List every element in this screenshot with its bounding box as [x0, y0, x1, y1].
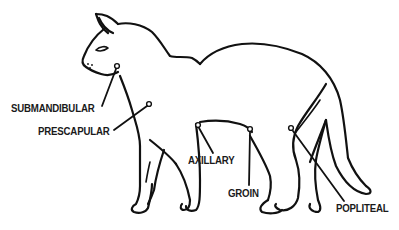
axillary-node-marker	[196, 123, 201, 128]
popliteal-node-marker	[289, 126, 294, 131]
cat-lymph-node-diagram	[0, 0, 399, 230]
prescapular-label: PRESCAPULAR	[38, 125, 110, 137]
groin-leader-line	[249, 132, 250, 185]
groin-node-marker	[248, 127, 253, 132]
submandibular-label: SUBMANDIBULAR	[11, 102, 94, 114]
submandibular-node-marker	[115, 64, 120, 69]
cat-outline	[82, 14, 370, 213]
axillary-leader-line	[199, 128, 213, 153]
groin-label: GROIN	[228, 187, 259, 199]
popliteal-label: POPLITEAL	[336, 202, 389, 214]
axillary-label: AXILLARY	[188, 154, 234, 166]
prescapular-leader-line	[114, 106, 147, 130]
